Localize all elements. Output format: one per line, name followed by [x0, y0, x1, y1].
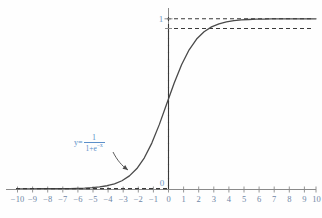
- x-tick-label: 8: [287, 194, 291, 204]
- sigmoid-figure: −10 −9 −8 −7 −6 −5 −4 −3 −2 −1 0 1 2 3 4…: [0, 0, 322, 218]
- x-tick-label: −2: [134, 194, 143, 204]
- tick-label-layer: −10 −9 −8 −7 −6 −5 −4 −3 −2 −1 0 1 2 3 4…: [0, 0, 322, 218]
- y-value-zero-label: 0: [160, 178, 165, 188]
- formula-annotation: y=11+e−x: [74, 134, 105, 152]
- x-tick-labels: −10 −9 −8 −7 −6 −5 −4 −3 −2 −1 0 1 2 3 4…: [11, 194, 321, 204]
- x-tick-label: 4: [227, 194, 232, 204]
- x-tick-label: 9: [302, 194, 306, 204]
- x-tick-label: 7: [272, 194, 276, 204]
- x-tick-label: 0: [166, 194, 170, 204]
- x-tick-label: −5: [88, 194, 97, 204]
- x-tick-label: −6: [73, 194, 82, 204]
- x-tick-label: −7: [58, 194, 67, 204]
- x-tick-label: 2: [197, 194, 201, 204]
- x-tick-label: −3: [119, 194, 128, 204]
- x-tick-label: 5: [242, 194, 246, 204]
- formula-exponent: −x: [97, 142, 103, 148]
- x-tick-label: −4: [104, 194, 114, 204]
- formula-denominator-base: 1+e: [86, 144, 97, 153]
- formula-lhs: y=: [74, 138, 83, 147]
- y-value-one-label: 1: [159, 14, 164, 24]
- x-tick-label: −8: [43, 194, 52, 204]
- x-tick-label: 6: [257, 194, 261, 204]
- x-tick-label: 3: [212, 194, 216, 204]
- x-tick-label: 1: [181, 194, 185, 204]
- x-tick-label: −10: [11, 194, 24, 204]
- x-tick-label: −1: [149, 194, 158, 204]
- formula-fraction: 11+e−x: [84, 134, 105, 152]
- x-tick-label: −9: [28, 194, 37, 204]
- x-tick-label: 10: [312, 194, 321, 204]
- formula-denominator: 1+e−x: [84, 143, 105, 152]
